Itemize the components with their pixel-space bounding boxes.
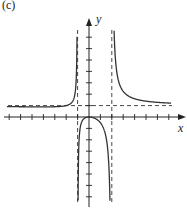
curve-middle-branch (78, 117, 110, 201)
y-axis-arrow-icon (86, 18, 92, 26)
curve-left-branch (7, 37, 77, 107)
x-axis-arrow-icon (178, 114, 186, 120)
curve-right-branch (114, 31, 171, 103)
x-axis-label: x (178, 121, 183, 136)
y-axis-label: y (96, 12, 101, 27)
function-graph (0, 0, 187, 209)
